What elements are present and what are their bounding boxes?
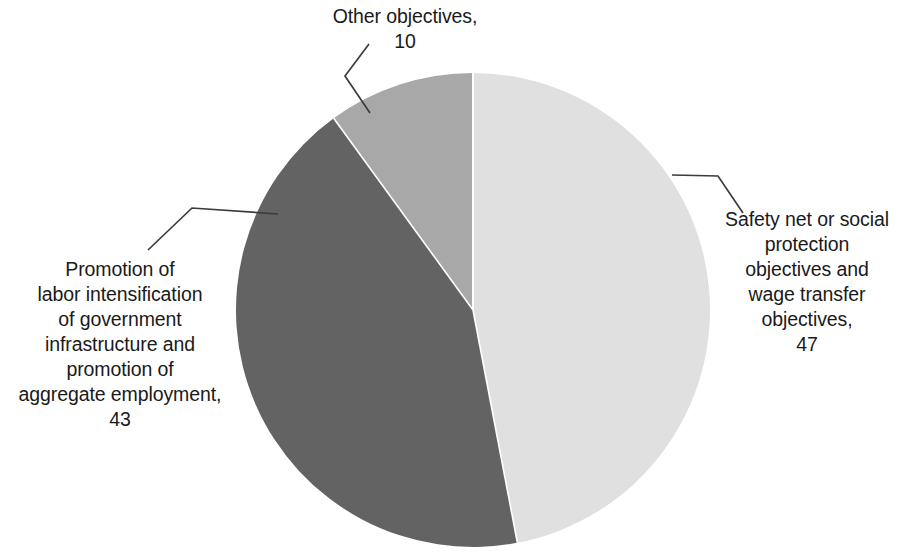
- pie-label-promotion-labor: Promotion of labor intensification of go…: [6, 257, 234, 432]
- pie-label-other-objectives: Other objectives, 10: [300, 4, 510, 54]
- pie-label-safety-net: Safety net or social protection objectiv…: [714, 207, 900, 357]
- pie-slice-safety-net[interactable]: [473, 73, 710, 543]
- pie-chart-figure: Other objectives, 10 Safety net or socia…: [0, 0, 904, 560]
